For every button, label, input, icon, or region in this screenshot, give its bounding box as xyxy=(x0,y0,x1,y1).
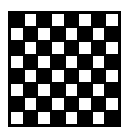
dark-square xyxy=(65,41,79,55)
dark-square xyxy=(37,41,51,55)
dark-square xyxy=(65,97,79,111)
dark-square xyxy=(105,55,119,69)
light-square xyxy=(11,84,23,96)
light-square xyxy=(66,84,78,96)
light-square xyxy=(52,98,64,110)
light-square xyxy=(52,14,64,26)
dark-square xyxy=(24,27,38,41)
dark-square xyxy=(78,55,92,69)
light-square xyxy=(93,84,105,96)
dark-square xyxy=(78,83,92,97)
light-square xyxy=(38,112,50,124)
dark-square xyxy=(105,111,119,125)
light-square xyxy=(25,42,37,54)
dark-square xyxy=(78,27,92,41)
light-square xyxy=(25,98,37,110)
light-square xyxy=(38,56,50,68)
dark-square xyxy=(37,69,51,83)
light-square xyxy=(106,42,118,54)
dark-square xyxy=(51,111,65,125)
dark-square xyxy=(37,97,51,111)
light-square xyxy=(66,112,78,124)
light-square xyxy=(93,56,105,68)
light-square xyxy=(79,42,91,54)
dark-square xyxy=(51,27,65,41)
dark-square xyxy=(92,69,106,83)
light-square xyxy=(11,112,23,124)
checkerboard xyxy=(8,11,121,127)
dark-square xyxy=(92,41,106,55)
light-square xyxy=(52,70,64,82)
dark-square xyxy=(51,83,65,97)
dark-square xyxy=(92,97,106,111)
dark-square xyxy=(51,55,65,69)
light-square xyxy=(11,28,23,40)
light-square xyxy=(66,28,78,40)
light-square xyxy=(25,14,37,26)
light-square xyxy=(11,56,23,68)
dark-square xyxy=(10,69,24,83)
light-square xyxy=(93,112,105,124)
dark-square xyxy=(24,83,38,97)
dark-square xyxy=(24,55,38,69)
light-square xyxy=(79,14,91,26)
light-square xyxy=(25,70,37,82)
dark-square xyxy=(105,83,119,97)
dark-square xyxy=(78,111,92,125)
light-square xyxy=(106,98,118,110)
dark-square xyxy=(65,13,79,27)
light-square xyxy=(52,42,64,54)
dark-square xyxy=(37,13,51,27)
light-square xyxy=(38,84,50,96)
dark-square xyxy=(10,97,24,111)
light-square xyxy=(106,70,118,82)
dark-square xyxy=(65,69,79,83)
dark-square xyxy=(92,13,106,27)
light-square xyxy=(106,14,118,26)
light-square xyxy=(38,28,50,40)
light-square xyxy=(79,70,91,82)
dark-square xyxy=(10,41,24,55)
dark-square xyxy=(10,13,24,27)
dark-square xyxy=(105,27,119,41)
light-square xyxy=(93,28,105,40)
light-square xyxy=(66,56,78,68)
light-square xyxy=(79,98,91,110)
dark-square xyxy=(24,111,38,125)
